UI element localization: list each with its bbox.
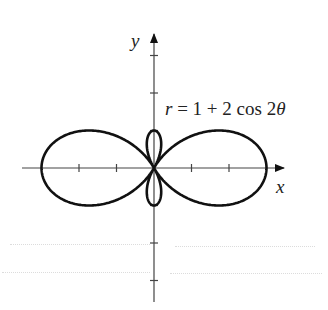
- scan-noise-line: [10, 244, 150, 246]
- scan-noise-line: [175, 246, 315, 248]
- x-axis-label: x: [275, 176, 285, 197]
- scan-noise-line: [170, 273, 322, 275]
- equation-middle: = 1 + 2 cos 2: [172, 98, 276, 119]
- y-axis-label: y: [129, 30, 140, 51]
- polar-graph: y x r = 1 + 2 cos 2θ: [0, 0, 328, 310]
- scan-noise-line: [2, 272, 150, 274]
- equation-theta: θ: [276, 98, 285, 119]
- equation-label: r = 1 + 2 cos 2θ: [165, 98, 286, 119]
